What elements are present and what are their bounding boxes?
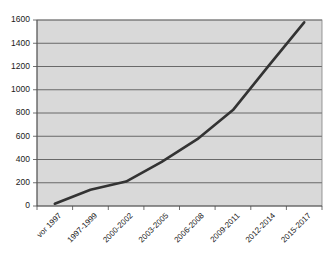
y-tick-label: 1600 [11,14,30,24]
y-tick-label: 600 [16,131,30,141]
y-tick-label: 0 [25,200,30,210]
y-tick-label: 400 [16,154,30,164]
line-chart: 1600 1400 1200 1000 800 600 400 200 0 vo… [0,0,335,260]
y-tick-label: 200 [16,177,30,187]
y-tick-label: 1400 [11,38,30,48]
chart-canvas: 1600 1400 1200 1000 800 600 400 200 0 vo… [0,0,335,260]
y-tick-label: 1200 [11,61,30,71]
y-tick-label: 1000 [11,84,30,94]
y-tick-label: 800 [16,107,30,117]
